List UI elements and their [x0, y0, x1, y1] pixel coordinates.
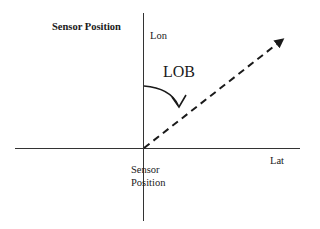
lat-axis-label: Lat — [270, 156, 284, 167]
angle-arc-arrowhead — [172, 95, 186, 107]
lon-axis-label: Lon — [150, 31, 167, 42]
origin-label-line2: Position — [131, 176, 165, 189]
origin-label-line1: Sensor — [131, 163, 165, 176]
origin-label: Sensor Position — [131, 163, 165, 189]
lob-vector — [144, 40, 282, 148]
diagram-title: Sensor Position — [52, 22, 121, 33]
angle-arc — [144, 86, 178, 105]
lob-angle-label: LOB — [163, 64, 195, 80]
